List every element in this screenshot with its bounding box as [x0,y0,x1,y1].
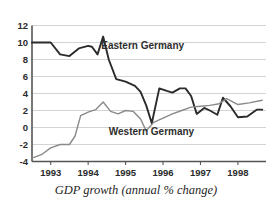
x-tick-label: 1998 [218,168,258,178]
y-tick-label: -4 [4,157,28,167]
series-label-western-germany: Western Germany [109,127,194,137]
x-tick-label: 1993 [31,168,71,178]
x-tick-label: 1994 [68,168,108,178]
y-tick-label: 8 [4,55,28,65]
x-tick-label: 1997 [180,168,220,178]
y-tick-label: 0 [4,123,28,133]
y-tick-label: 12 [4,21,28,31]
series-label-eastern-germany: Eastern Germany [101,41,184,51]
x-tick-label: 1995 [106,168,146,178]
y-tick-label: -2 [4,140,28,150]
chart-caption: GDP growth (annual % change) [0,183,272,198]
series-lines [32,37,262,159]
y-tick-label: 6 [4,72,28,82]
chart-screenshot: 121086420-2-4 199319941995199619971998 E… [0,0,272,204]
y-tick-label: 10 [4,38,28,48]
x-tick-label: 1996 [143,168,183,178]
y-tick-label: 4 [4,89,28,99]
y-tick-label: 2 [4,106,28,116]
